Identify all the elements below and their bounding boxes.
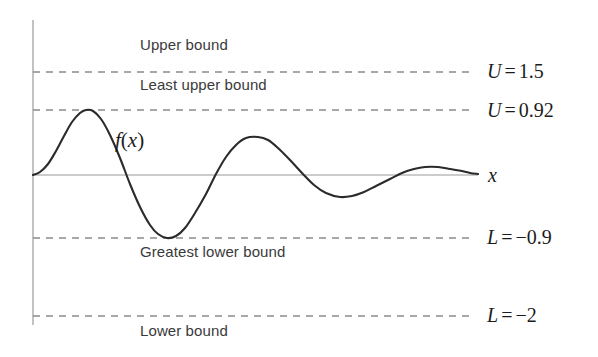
caption-least-upper-bound: Least upper bound — [140, 76, 267, 93]
value-lower-bound: −2 — [515, 304, 536, 326]
operator-equals-least-upper: = — [501, 99, 518, 121]
caption-lower-bound: Lower bound — [140, 322, 228, 339]
symbol-U-least-upper: U — [487, 99, 501, 121]
operator-equals-upper: = — [501, 60, 518, 82]
label-lower-bound-value: L=−2 — [487, 304, 537, 327]
value-upper-bound: 1.5 — [519, 60, 544, 82]
value-greatest-lower-bound: −0.9 — [515, 226, 551, 248]
operator-equals-greatest-lower: = — [498, 226, 515, 248]
symbol-U-upper: U — [487, 60, 501, 82]
paren-open: ( — [121, 128, 128, 152]
caption-upper-bound: Upper bound — [140, 36, 228, 53]
operator-equals-lower: = — [498, 304, 515, 326]
function-curve — [33, 110, 478, 238]
symbol-L-lower: L — [487, 304, 498, 326]
caption-greatest-lower-bound: Greatest lower bound — [140, 243, 285, 260]
x-axis-label: x — [488, 164, 497, 187]
function-variable-x: x — [128, 128, 137, 152]
value-least-upper-bound: 0.92 — [519, 99, 554, 121]
symbol-L-greatest-lower: L — [487, 226, 498, 248]
label-least-upper-bound-value: U=0.92 — [487, 99, 554, 122]
label-upper-bound-value: U=1.5 — [487, 60, 544, 83]
figure-canvas: Upper bound Least upper bound Greatest l… — [0, 0, 598, 357]
label-greatest-lower-bound-value: L=−0.9 — [487, 226, 552, 249]
paren-close: ) — [137, 128, 144, 152]
function-label: f(x) — [115, 128, 144, 153]
